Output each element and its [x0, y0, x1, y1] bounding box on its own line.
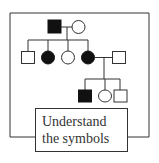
gen2-male-unaffected-square-icon: [22, 52, 35, 64]
gen2-female-unaffected-circle-icon: [62, 51, 75, 64]
gen3-male-unaffected-square-icon: [114, 90, 127, 102]
gen2-female-affected-circle-icon: [42, 51, 55, 64]
caption-box: Understand the symbols: [35, 108, 128, 152]
caption-line-2: the symbols: [42, 130, 127, 147]
gen2-female-affected-circle-icon: [82, 51, 95, 64]
generation-1: [48, 20, 85, 40]
caption-line-1: Understand: [42, 113, 127, 130]
gen3-female-unaffected-circle-icon: [99, 90, 112, 102]
gen3-sibship: [85, 79, 120, 90]
gen2-sibship: [28, 40, 88, 51]
gen2-spouse-male-unaffected-square-icon: [113, 52, 126, 64]
gen3-male-affected-square-icon: [79, 90, 92, 102]
gen1-male-affected-square-icon: [48, 20, 61, 33]
generation-3: [79, 90, 128, 102]
gen1-female-unaffected-circle-icon: [72, 21, 85, 34]
generation-2: [22, 51, 126, 79]
